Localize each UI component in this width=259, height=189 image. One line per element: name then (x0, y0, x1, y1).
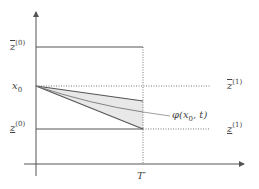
z-bar-1-label: z(1) (227, 79, 242, 91)
t-prime-label: T′ (137, 171, 146, 181)
z-under-0-label: z(0) (10, 121, 25, 133)
x0-label: x0 (12, 81, 22, 94)
phi-leader-line (143, 112, 170, 116)
diagram-canvas (0, 0, 259, 189)
phi-label: φ(x0, t) (172, 110, 207, 123)
z-under-1-label: z(1) (227, 122, 242, 134)
z-bar-0-label: z(0) (10, 40, 25, 52)
